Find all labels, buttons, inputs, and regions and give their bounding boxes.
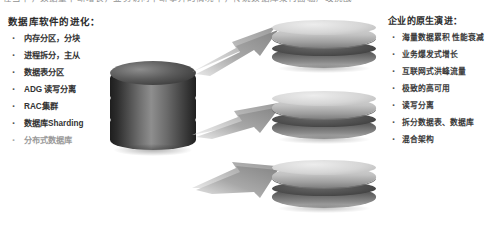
right-bullet-list: 海量数据累积 性能衰减 业务爆发式增长 互联网式洪峰流量 极致的高可用 读写分离… [388,33,490,145]
bullet-label: 极致的高可用 [402,84,450,93]
right-column-heading: 企业的原生演进： [388,14,490,27]
slide-canvas: 在当下，数据量不断增长，业务访问不断攀升的情况下，传统数据库架构面临严峻挑战 数… [0,0,490,226]
list-item: 互联网式洪峰流量 [388,67,490,77]
list-item: 进程拆分，主从 [8,51,136,61]
arrow-to-shard-1-icon [190,22,282,80]
target-shadow [278,135,370,144]
bullet-label: 数据库Sharding [24,119,83,128]
bullet-label: 数据表分区 [24,68,64,77]
cylinder-shadow [114,144,192,156]
top-cutoff-text-strip: 在当下，数据量不断增长，业务访问不断攀升的情况下，传统数据库架构面临严峻挑战 [0,0,490,11]
bullet-label: 混合架构 [402,135,434,144]
bullet-label: RAC集群 [24,102,58,111]
source-database-cylinder-icon [110,68,196,156]
list-item: 读写分离 [388,101,490,111]
bullet-label: 内存分区，分块 [24,34,80,43]
bullet-label: 业务爆发式增长 [402,50,458,59]
disc-light-top [272,20,376,35]
list-item: 混合架构 [388,135,490,145]
target-shadow [278,64,370,73]
list-item: 业务爆发式增长 [388,50,490,60]
target-shadow [278,204,370,213]
arrow-to-shard-3-icon [190,160,282,218]
bullet-label: 海量数据累积 性能衰减 [402,33,484,42]
list-item: 极致的高可用 [388,84,490,94]
bullet-label: 拆分数据表、数据库 [402,118,474,127]
right-text-column: 企业的原生演进： 海量数据累积 性能衰减 业务爆发式增长 互联网式洪峰流量 极致… [388,14,490,152]
disc-light-top [272,160,376,175]
target-shard-1-icon [272,24,376,72]
bullet-label: 进程拆分，主从 [24,51,80,60]
bullet-label: 互联网式洪峰流量 [402,67,466,76]
bullet-label: ADG 读写分离 [24,85,76,94]
bullet-label: 分布式数据库 [24,136,72,145]
disc-light-top [272,91,376,106]
target-shard-2-icon [272,95,376,143]
top-cutoff-text: 在当下，数据量不断增长，业务访问不断攀升的情况下，传统数据库架构面临严峻挑战 [3,0,353,3]
target-shard-3-icon [272,164,376,212]
arrow-to-shard-2-icon [190,93,282,151]
bullet-label: 读写分离 [402,101,434,110]
list-item: 海量数据累积 性能衰减 [388,33,490,43]
cylinder-top-ellipse [110,61,196,85]
list-item: 内存分区，分块 [8,34,136,44]
list-item: 拆分数据表、数据库 [388,118,490,128]
left-column-heading: 数据库软件的进化： [8,14,136,28]
